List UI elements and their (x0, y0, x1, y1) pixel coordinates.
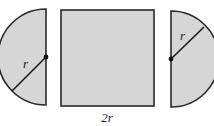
square: 2r (61, 10, 154, 125)
square-shape (61, 10, 154, 106)
square-side-label: 2r (101, 110, 114, 125)
right-semicircle-shape (171, 11, 214, 107)
diagram-canvas: r 2r r (0, 0, 214, 126)
right-semicircle: r (169, 11, 214, 107)
right-center-dot (169, 57, 174, 62)
left-center-dot (44, 55, 49, 60)
left-semicircle: r (0, 9, 48, 105)
